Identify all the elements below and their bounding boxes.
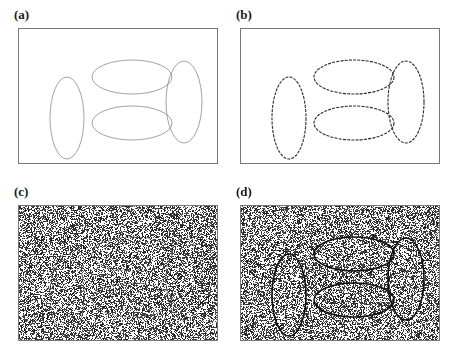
- left-vertical-ellipse: [272, 254, 306, 336]
- panel-d: (d): [0, 0, 454, 358]
- right-vertical-ellipse: [388, 238, 424, 320]
- figure-root: (a)(b)(c)(d): [0, 0, 454, 358]
- ellipse-group-d: [241, 206, 439, 340]
- panel-label-d: (d): [236, 185, 252, 198]
- top-horizontal-ellipse: [314, 237, 394, 271]
- panel-box-d: [240, 205, 440, 341]
- bottom-horizontal-ellipse: [314, 283, 394, 317]
